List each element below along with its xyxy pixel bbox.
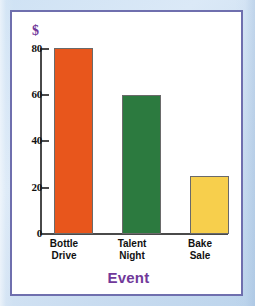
y-tick-label-40: 40 bbox=[16, 134, 42, 146]
x-category-label-0: Bottle Drive bbox=[34, 238, 94, 262]
x-category-label-2-line2: Sale bbox=[170, 250, 230, 262]
x-category-label-0-line2: Drive bbox=[34, 250, 94, 262]
x-category-label-2: Bake Sale bbox=[170, 238, 230, 262]
bars-layer bbox=[42, 48, 228, 234]
bar-bottle-drive[interactable] bbox=[54, 48, 93, 234]
y-tick-label-20: 20 bbox=[16, 181, 42, 193]
x-category-label-1-line1: Talent bbox=[102, 238, 162, 250]
y-tick-label-80: 80 bbox=[16, 42, 42, 54]
y-tick-label-60: 60 bbox=[16, 88, 42, 100]
x-category-label-2-line1: Bake bbox=[170, 238, 230, 250]
x-category-label-1: Talent Night bbox=[102, 238, 162, 262]
bar-bake-sale[interactable] bbox=[190, 176, 229, 234]
plot-area: $ 80 60 40 20 0 bbox=[12, 12, 241, 294]
x-category-label-0-line1: Bottle bbox=[34, 238, 94, 250]
bar-talent-night[interactable] bbox=[122, 95, 161, 235]
y-axis-title: $ bbox=[32, 23, 39, 39]
chart-card: $ 80 60 40 20 0 bbox=[10, 10, 243, 296]
figure-background: $ 80 60 40 20 0 bbox=[0, 0, 255, 306]
x-category-label-1-line2: Night bbox=[102, 250, 162, 262]
x-axis-title: Event bbox=[12, 269, 245, 286]
